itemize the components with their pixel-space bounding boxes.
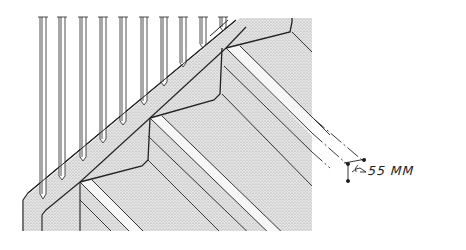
- dimension-label: 55 MM: [367, 163, 415, 178]
- stair-drawing: [0, 0, 466, 250]
- baluster: [178, 17, 188, 67]
- baluster: [57, 17, 67, 180]
- baluster: [198, 17, 208, 48]
- baluster: [159, 17, 169, 86]
- baluster: [78, 17, 88, 161]
- nosing-extension: [312, 117, 362, 168]
- baluster: [98, 17, 108, 143]
- dimension-marker: [344, 158, 366, 182]
- baluster: [38, 17, 48, 199]
- baluster: [118, 17, 128, 125]
- baluster: [139, 17, 149, 105]
